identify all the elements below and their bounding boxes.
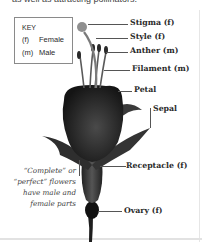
leader-style (96, 38, 128, 39)
label-style: Style (f) (130, 32, 165, 41)
key-abbr: (f) (22, 35, 39, 44)
label-petal: Petal (134, 85, 156, 94)
ovary-shape (85, 201, 99, 219)
label-filament: Filament (m) (132, 64, 189, 73)
label-stigma: Stigma (f) (130, 18, 174, 27)
label-ovary: Ovary (f) (124, 206, 162, 215)
leader-ovary (98, 211, 122, 212)
label-anther: Anther (m) (130, 46, 178, 55)
complete-flower-note: “Complete” or “perfect” flowers have mal… (10, 165, 76, 209)
leader-filament (104, 70, 130, 71)
key-legend: KEY (f)Female (m)Male (14, 17, 73, 64)
leader-receptacle (100, 166, 126, 167)
label-receptacle: Receptacle (f) (126, 161, 187, 170)
leader-sepal-v (150, 108, 151, 128)
key-entry-female: (f)Female (22, 35, 64, 44)
stem (88, 215, 93, 242)
note-bracket (79, 160, 80, 176)
stigma-shape (77, 22, 87, 32)
leader-stigma (88, 24, 128, 25)
key-label: Female (39, 35, 64, 44)
key-label: Male (39, 48, 55, 57)
key-title: KEY (22, 24, 36, 31)
leader-anther (106, 52, 128, 53)
leader-petal (118, 91, 132, 92)
key-abbr: (m) (22, 48, 39, 57)
label-sepal: Sepal (153, 104, 177, 113)
key-entry-male: (m)Male (22, 48, 55, 57)
